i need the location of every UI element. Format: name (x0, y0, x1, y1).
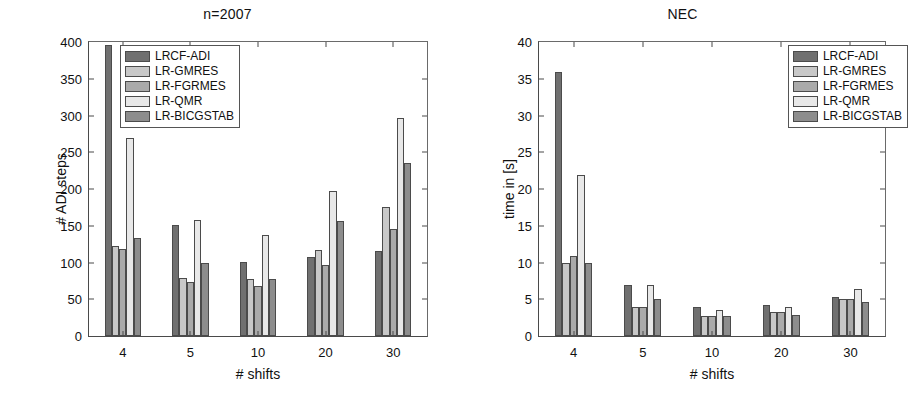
bar (632, 307, 639, 336)
legend-item: LR-BICGSTAB (793, 109, 902, 124)
bar (201, 263, 208, 336)
x-tick-label: 20 (318, 336, 332, 360)
y-tick-mark (539, 152, 544, 153)
y-tick-label: 15 (518, 218, 539, 233)
bar (375, 251, 382, 336)
y-tick-label: 10 (518, 255, 539, 270)
bar (555, 72, 562, 336)
x-tick-mark (642, 331, 643, 336)
legend-swatch-icon (793, 51, 818, 62)
bar (397, 118, 404, 336)
bar (126, 138, 133, 336)
legend-label: LR-QMR (155, 96, 202, 107)
legend-swatch-icon (125, 51, 150, 62)
y-tick-mark (422, 299, 427, 300)
legend-label: LR-GMRES (823, 66, 886, 77)
figure: n=2007 # ADI steps # shifts 050100150200… (0, 0, 910, 407)
x-tick-mark (781, 42, 782, 47)
bar (792, 315, 799, 336)
y-tick-label: 200 (60, 182, 89, 197)
x-tick-mark (642, 42, 643, 47)
legend-label: LRCF-ADI (155, 51, 210, 62)
y-tick-label: 0 (75, 329, 89, 344)
x-tick-mark (393, 42, 394, 47)
y-tick-label: 100 (60, 255, 89, 270)
legend-label: LR-GMRES (155, 66, 218, 77)
y-tick-label: 300 (60, 108, 89, 123)
y-tick-mark (89, 78, 94, 79)
y-tick-label: 20 (518, 182, 539, 197)
y-tick-mark (422, 189, 427, 190)
y-tick-mark (422, 78, 427, 79)
x-tick-mark (190, 331, 191, 336)
y-tick-mark (539, 299, 544, 300)
x-tick-label: 4 (570, 336, 577, 360)
x-tick-mark (258, 42, 259, 47)
legend-item: LRCF-ADI (125, 49, 234, 64)
bar (240, 262, 247, 336)
x-tick-mark (712, 42, 713, 47)
bar (839, 299, 846, 336)
x-tick-mark (122, 331, 123, 336)
y-tick-mark (539, 115, 544, 116)
y-tick-label: 150 (60, 218, 89, 233)
x-tick-label: 10 (705, 336, 719, 360)
bar (570, 256, 577, 336)
bar (585, 263, 592, 336)
y-tick-mark (89, 189, 94, 190)
y-tick-label: 35 (518, 71, 539, 86)
y-tick-mark (539, 262, 544, 263)
y-tick-mark (422, 152, 427, 153)
x-tick-label: 20 (774, 336, 788, 360)
bar (716, 310, 723, 336)
bar (179, 278, 186, 336)
bar (247, 279, 254, 336)
chart-title-right: NEC (455, 6, 910, 22)
legend-item: LRCF-ADI (793, 49, 902, 64)
bar (254, 286, 261, 336)
bar (832, 297, 839, 336)
bar (187, 282, 194, 336)
y-tick-label: 0 (525, 329, 539, 344)
legend-swatch-icon (125, 111, 150, 122)
bar (390, 229, 397, 336)
y-tick-mark (539, 78, 544, 79)
x-tick-label: 5 (639, 336, 646, 360)
x-tick-mark (393, 331, 394, 336)
bar (337, 221, 344, 336)
y-tick-mark (89, 299, 94, 300)
legend-item: LR-QMR (125, 94, 234, 109)
x-tick-mark (258, 331, 259, 336)
bar (577, 175, 584, 336)
bar (693, 307, 700, 336)
x-tick-label: 10 (251, 336, 265, 360)
x-tick-label: 4 (119, 336, 126, 360)
legend-item: LR-QMR (793, 94, 902, 109)
x-tick-mark (573, 42, 574, 47)
legend-label: LR-FGRMES (823, 81, 894, 92)
y-tick-mark (422, 225, 427, 226)
y-tick-mark (880, 152, 885, 153)
y-tick-label: 400 (60, 35, 89, 50)
bar (862, 302, 869, 336)
y-tick-label: 25 (518, 145, 539, 160)
y-tick-mark (89, 262, 94, 263)
y-tick-label: 350 (60, 71, 89, 86)
bar (112, 246, 119, 336)
bar (562, 263, 569, 336)
y-tick-mark (880, 299, 885, 300)
bar (172, 225, 179, 336)
legend-item: LR-GMRES (793, 64, 902, 79)
legend-label: LR-BICGSTAB (823, 111, 902, 122)
bar (119, 249, 126, 336)
x-tick-mark (325, 42, 326, 47)
x-tick-label: 5 (187, 336, 194, 360)
bar (382, 207, 389, 336)
bar (770, 312, 777, 336)
bar (785, 307, 792, 336)
bar (105, 45, 112, 336)
bar (654, 299, 661, 336)
x-tick-mark (325, 331, 326, 336)
legend-item: LR-FGRMES (125, 79, 234, 94)
x-tick-mark (850, 331, 851, 336)
